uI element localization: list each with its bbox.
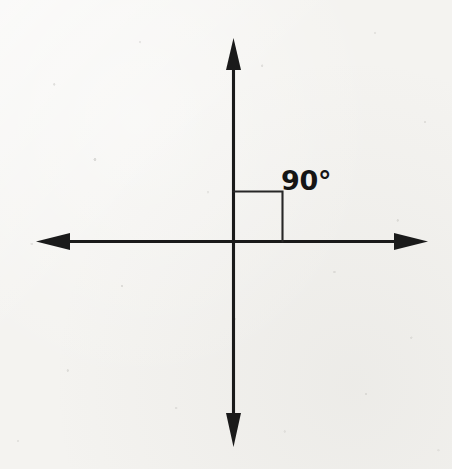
right-angle-square xyxy=(234,192,283,242)
angle-label-90: 90° xyxy=(281,165,331,196)
arrowhead-down-icon xyxy=(226,413,241,447)
diagram-canvas: 90° xyxy=(0,0,452,469)
arrowhead-right-icon xyxy=(394,233,428,250)
arrowhead-left-icon xyxy=(36,233,70,250)
right-angle-figure: 90° xyxy=(0,0,452,469)
arrowhead-up-icon xyxy=(226,38,241,70)
